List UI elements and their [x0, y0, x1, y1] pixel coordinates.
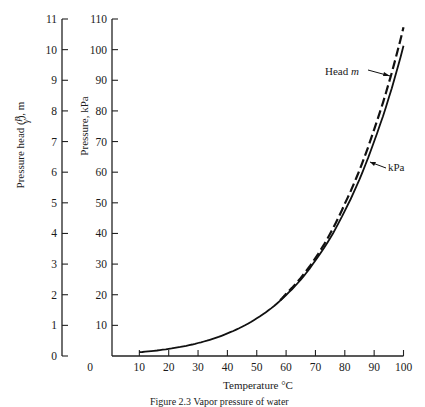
- x-tick-label: 20: [163, 361, 175, 373]
- x-tick-label: 0: [87, 361, 93, 373]
- head-tick-label: 7: [51, 136, 57, 148]
- head-tick-label: 1: [51, 319, 57, 331]
- kpa-axis-title: Pressure, kPa: [78, 96, 90, 155]
- x-tick-label: 40: [222, 361, 234, 373]
- kpa-tick-label: 40: [96, 227, 108, 239]
- x-tick-label: 30: [192, 361, 204, 373]
- kpa-tick-label: 60: [96, 166, 108, 178]
- x-tick-label: 80: [339, 361, 351, 373]
- head-tick-label: 0: [51, 350, 57, 362]
- head-tick-label: 2: [51, 289, 57, 301]
- x-tick-label: 100: [395, 361, 413, 373]
- kpa-tick-label: 80: [96, 105, 108, 117]
- kpa-tick-label: 30: [96, 258, 108, 270]
- kpa-tick-label: 100: [90, 44, 108, 56]
- head-m-arrowhead-icon: [383, 72, 390, 76]
- kpa-tick-label: 10: [96, 319, 108, 331]
- annotations: Head mkPa: [325, 65, 405, 173]
- head-tick-label: 4: [51, 227, 57, 239]
- curves: [139, 27, 403, 352]
- kpa-tick-label: 90: [96, 74, 108, 86]
- x-tick-label: 90: [368, 361, 380, 373]
- x-tick-label: 50: [251, 361, 263, 373]
- x-tick-label: 10: [134, 361, 146, 373]
- head-axis-title: Pressure head (pγ), m: [11, 101, 31, 188]
- head-tick-label: 9: [51, 74, 57, 86]
- kpa-solid-curve: [139, 46, 403, 353]
- kpa-tick-label: 20: [96, 289, 108, 301]
- kpa-tick-label: 50: [96, 197, 108, 209]
- head-tick-label: 10: [46, 44, 58, 56]
- head-m-annotation: Head m: [325, 65, 359, 77]
- x-axis-title: Temperature °C: [223, 379, 293, 391]
- x-tick-label: 60: [280, 361, 292, 373]
- head-tick-label: 3: [51, 258, 57, 270]
- head-tick-label: 11: [46, 13, 57, 25]
- x-tick-label: 70: [310, 361, 322, 373]
- head-tick-label: 6: [51, 166, 57, 178]
- kpa-tick-label: 70: [96, 136, 108, 148]
- head-tick-label: 5: [51, 197, 57, 209]
- kpa-annotation: kPa: [388, 161, 405, 173]
- figure-caption: Figure 2.3 Vapor pressure of water: [150, 396, 289, 407]
- head-tick-label: 8: [51, 105, 57, 117]
- kpa-tick-label: 110: [90, 13, 107, 25]
